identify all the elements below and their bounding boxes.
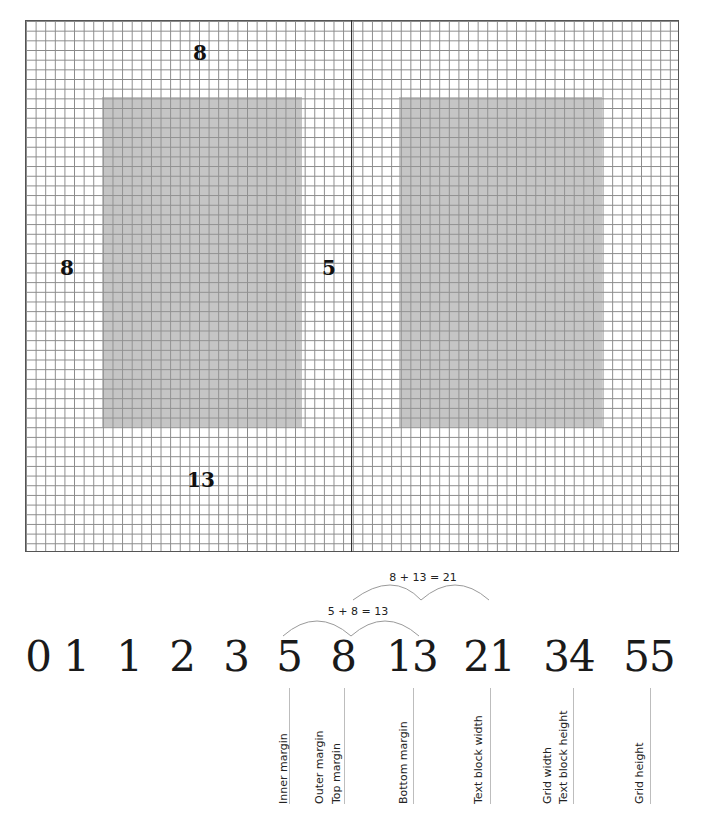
fib-number-3: 3 (223, 636, 249, 678)
label-text-block-height: Text block height (557, 711, 570, 805)
equation-5-8-13: 5 + 8 = 13 (328, 605, 388, 618)
label-top-margin: Top margin (330, 743, 343, 804)
fib-number-34: 34 (543, 636, 594, 678)
fib-number-2: 2 (169, 636, 195, 678)
fib-number-0: 0 (25, 636, 51, 678)
connector-13 (413, 688, 414, 804)
fib-number-21: 21 (463, 636, 514, 678)
label-bottom-margin: Bottom margin (397, 721, 410, 804)
label-inner-margin: Inner margin (277, 733, 290, 804)
connector-21 (490, 688, 491, 804)
label-grid-height: Grid height (633, 742, 646, 804)
fib-number-1a: 1 (63, 636, 89, 678)
sum-arcs (0, 0, 702, 824)
fib-number-13: 13 (386, 636, 437, 678)
fib-number-1b: 1 (116, 636, 142, 678)
label-grid-width: Grid width (541, 747, 554, 804)
connector-34 (573, 688, 574, 804)
fib-number-8: 8 (330, 636, 356, 678)
connector-55 (650, 688, 651, 804)
fib-number-5: 5 (276, 636, 302, 678)
label-outer-margin: Outer margin (313, 730, 326, 804)
connector-8 (344, 688, 345, 804)
equation-8-13-21: 8 + 13 = 21 (389, 571, 456, 584)
label-text-block-width: Text block width (472, 715, 485, 804)
fib-number-55: 55 (623, 636, 674, 678)
